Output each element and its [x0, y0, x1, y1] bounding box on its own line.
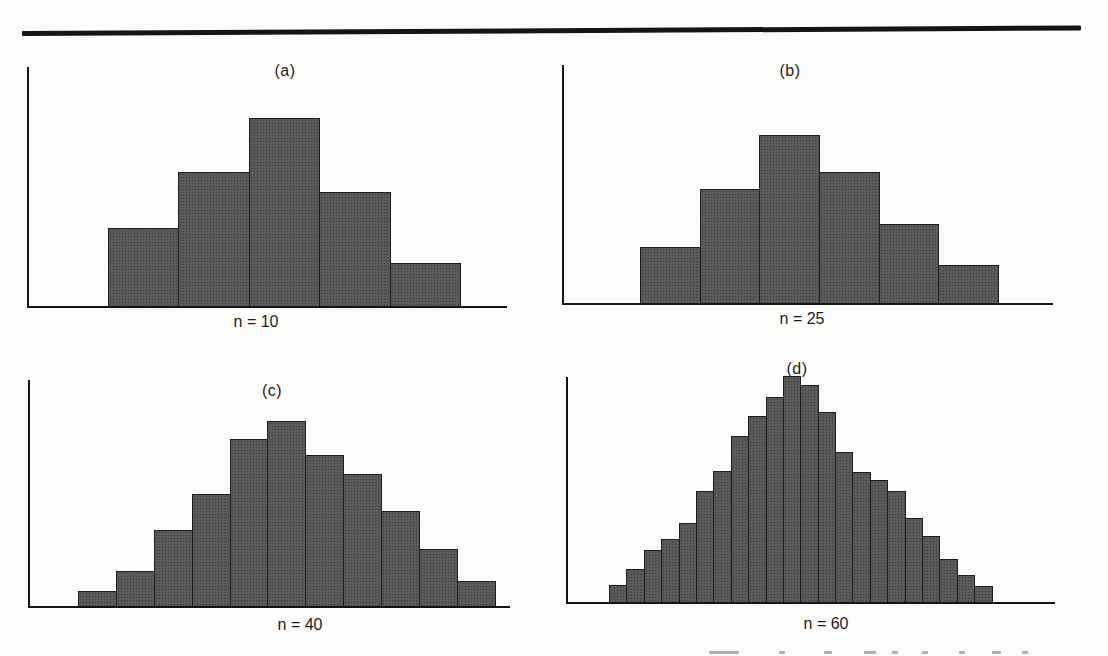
histogram-bar [267, 421, 306, 606]
histogram-bar [696, 491, 714, 602]
histogram-bars-b [640, 135, 999, 303]
sample-size-label-d: n = 60 [766, 615, 886, 633]
histogram-bar [957, 575, 975, 602]
plot-area-d [566, 377, 1055, 604]
histogram-bar [939, 559, 957, 602]
histogram-bar [192, 494, 231, 606]
histogram-bar [700, 189, 761, 303]
histogram-bar [457, 581, 496, 606]
histogram-bar [852, 472, 870, 602]
histogram-bar [974, 586, 992, 602]
histogram-bars-c [78, 421, 496, 606]
histogram-bars-d [609, 376, 993, 602]
histogram-bar [800, 385, 818, 602]
page-top-rule [22, 25, 1081, 36]
histogram-bar [713, 471, 731, 602]
histogram-bar [819, 172, 880, 303]
histogram-bar [644, 550, 662, 602]
histogram-bar [938, 265, 999, 303]
sample-size-label-b: n = 25 [742, 310, 862, 328]
histogram-bar [390, 263, 461, 306]
histogram-bar [679, 523, 697, 602]
histogram-bar [319, 192, 390, 306]
histogram-bar [661, 539, 679, 602]
plot-area-b [562, 65, 1053, 305]
histogram-bar [922, 536, 940, 602]
histogram-bar [759, 135, 820, 303]
histogram-bar [626, 569, 644, 602]
histogram-bar [381, 511, 420, 606]
histogram-bar [343, 474, 382, 606]
histogram-bar [748, 416, 766, 602]
histogram-bar [78, 591, 117, 606]
histogram-bar [879, 224, 940, 303]
histogram-bars-a [108, 118, 461, 306]
sample-size-label-a: n = 10 [196, 313, 316, 331]
histogram-bar [419, 549, 458, 606]
histogram-bar [818, 412, 836, 602]
histogram-bar [835, 452, 853, 602]
histogram-bar [870, 480, 888, 602]
histogram-bar [640, 247, 701, 303]
histogram-bar [305, 455, 344, 606]
histogram-bar [116, 571, 155, 606]
histogram-bar [905, 518, 923, 602]
histogram-bar [609, 585, 627, 602]
histogram-bar [249, 118, 320, 306]
scanned-figure-page: (a) n = 10 (b) n = 25 (c) n = 40 (d) n =… [0, 0, 1108, 656]
histogram-bar [178, 172, 249, 306]
plot-area-a [27, 67, 507, 308]
histogram-bar [887, 491, 905, 602]
histogram-bar [783, 376, 801, 602]
histogram-bar [230, 439, 269, 606]
plot-area-c [28, 380, 510, 608]
histogram-bar [766, 397, 784, 602]
sample-size-label-c: n = 40 [240, 616, 360, 634]
histogram-bar [731, 436, 749, 602]
histogram-bar [154, 530, 193, 606]
histogram-bar [108, 228, 179, 306]
